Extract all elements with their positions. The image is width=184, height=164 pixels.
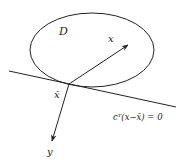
tangent-hyperplane-line [9, 71, 176, 107]
point-x-label: x [108, 33, 114, 44]
region-label-d: D [58, 25, 68, 38]
supporting-hyperplane-diagram: D x x̄ y cᵀ(x−x̄) = 0 [0, 0, 184, 164]
point-y-label: y [46, 146, 53, 157]
arrow-to-x [69, 45, 128, 84]
hyperplane-equation-label: cᵀ(x−x̄) = 0 [113, 112, 163, 122]
point-xbar-label: x̄ [54, 89, 60, 100]
convex-set-ellipse [30, 13, 154, 87]
